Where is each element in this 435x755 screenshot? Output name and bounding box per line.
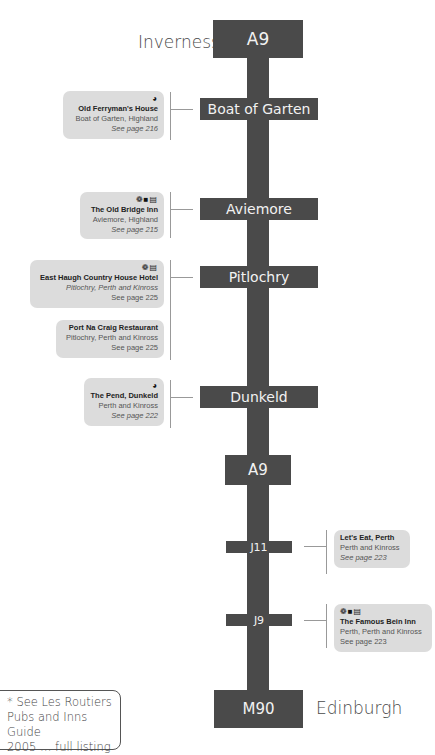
sign-m90: M90 [214,690,303,728]
road-spine [247,50,269,690]
footnote-line: 2005 … full listing [7,740,120,755]
venue-icons: ❁■▤ [340,607,426,617]
venue-location: Perth and Kinross [340,543,404,553]
venue-page: See page 223 [340,637,426,647]
venue-card-the-pend[interactable]: ◕ The Pend, Dunkeld Perth and Kinross Se… [84,378,164,426]
venue-location: Pitlochry, Perth and Kinross [62,333,158,343]
connector-line [304,620,326,621]
venue-icons: ◕ [69,94,158,104]
venue-icons: ❁■▤ [86,195,158,205]
connector-line [326,604,327,648]
connector-line [171,397,193,398]
sign-aviemore: Aviemore [200,198,318,220]
venue-page: See page 223 [340,553,404,563]
connector-line [170,192,171,238]
venue-name: Port Na Craig Restaurant [62,323,158,333]
venue-name: The Pend, Dunkeld [90,391,158,401]
sign-boat-of-garten: Boat of Garten [200,98,318,120]
venue-name: The Old Bridge Inn [86,205,158,215]
venue-card-lets-eat-perth[interactable]: Let's Eat, Perth Perth and Kinross See p… [334,530,410,568]
venue-page: See page 225 [36,293,158,303]
venue-page: See page 215 [86,225,158,235]
sign-j11: J11 [226,541,292,553]
venue-card-east-haugh[interactable]: ❁▤ East Haugh Country House Hotel Pitloc… [30,260,164,308]
venue-page: See page 225 [62,343,158,353]
venue-name: Let's Eat, Perth [340,533,404,543]
connector-line [171,277,193,278]
venue-name: East Haugh Country House Hotel [36,273,158,283]
venue-location: Boat of Garten, Highland [69,114,158,124]
start-city-label: Inverness [138,32,220,52]
venue-card-port-na-craig[interactable]: Port Na Craig Restaurant Pitlochry, Pert… [56,320,164,358]
footnote-line: * See Les Routiers [7,695,120,710]
connector-line [170,260,171,360]
venue-location: Perth and Kinross [90,401,158,411]
sign-a9-middle: A9 [225,455,291,485]
venue-page: See page 216 [69,124,158,134]
sign-pitlochry: Pitlochry [200,266,318,288]
venue-location: Aviemore, Highland [86,215,158,225]
venue-name: Old Ferryman's House [69,104,158,114]
venue-location: Perth, Perth and Kinross [340,627,426,637]
venue-page: See page 222 [90,411,158,421]
venue-icons: ❁▤ [36,263,158,273]
connector-line [326,530,327,574]
footnote-box: * See Les Routiers Pubs and Inns Guide 2… [0,690,121,750]
venue-location: Pitlochry, Perth and Kinross [36,283,158,293]
connector-line [171,209,193,210]
connector-line [304,546,326,547]
connector-line [170,92,171,140]
connector-line [170,380,171,428]
venue-icons: ◕ [90,381,158,391]
sign-a9-top: A9 [213,20,303,58]
footnote-line: Pubs and Inns Guide [7,710,120,740]
sign-j9: J9 [226,614,292,626]
venue-card-famous-bein-inn[interactable]: ❁■▤ The Famous Bein Inn Perth, Perth and… [334,604,432,652]
venue-name: The Famous Bein Inn [340,617,426,627]
venue-card-old-ferrymans-house[interactable]: ◕ Old Ferryman's House Boat of Garten, H… [63,91,164,139]
connector-line [171,109,193,110]
end-city-label: Edinburgh [316,698,402,718]
sign-dunkeld: Dunkeld [200,386,318,408]
venue-card-old-bridge-inn[interactable]: ❁■▤ The Old Bridge Inn Aviemore, Highlan… [80,192,164,239]
